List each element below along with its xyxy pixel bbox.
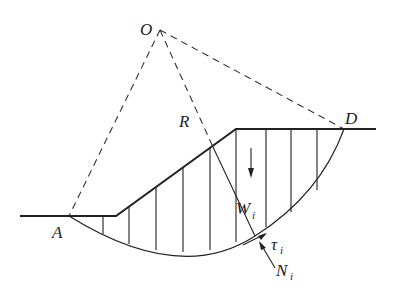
label-weight-W: W bbox=[236, 199, 252, 218]
weight-arrow bbox=[248, 148, 254, 178]
label-radius-R: R bbox=[178, 112, 190, 131]
label-shear-sub: i bbox=[280, 244, 283, 256]
label-weight-sub: i bbox=[252, 209, 255, 221]
label-shear-tau: τ bbox=[271, 235, 278, 254]
label-point-D: D bbox=[344, 109, 358, 128]
label-normal-N: N bbox=[275, 261, 289, 280]
label-point-A: A bbox=[51, 223, 63, 242]
slip-circle-arc bbox=[69, 129, 344, 256]
radius-lines bbox=[69, 30, 344, 216]
label-center-O: O bbox=[140, 20, 152, 39]
radius-OA bbox=[69, 30, 160, 216]
label-normal-sub: i bbox=[290, 270, 293, 282]
radius-to-base bbox=[213, 147, 255, 236]
slope-stability-diagram: O R A D W i τ i N i bbox=[0, 0, 402, 295]
shear-arrowhead bbox=[258, 233, 267, 240]
